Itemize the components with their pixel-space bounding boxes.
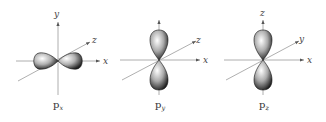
upper-lobe xyxy=(254,30,272,60)
orbital-label-py: py xyxy=(155,99,165,112)
upper-lobe xyxy=(150,30,168,60)
z-axis-label: z xyxy=(259,8,265,18)
x-axis-label: x xyxy=(103,56,108,66)
right-lobe xyxy=(58,53,82,69)
z-axis-label: z xyxy=(195,35,201,45)
p-orbitals-figure: y z x px z x py z y x pz xyxy=(0,0,326,122)
panel-pz: z y x pz xyxy=(224,8,312,112)
orbital-label-px: px xyxy=(53,99,63,112)
lower-lobe xyxy=(150,60,168,90)
panel-py: z x py xyxy=(120,20,208,112)
panel-px: y z x px xyxy=(16,9,108,112)
x-axis-label: x xyxy=(307,55,312,65)
x-axis-label: x xyxy=(203,55,208,65)
y-axis-label: y xyxy=(298,34,305,44)
lower-lobe xyxy=(254,60,272,90)
orbital-label-pz: pz xyxy=(259,99,269,112)
z-axis-label: z xyxy=(91,35,97,45)
y-axis-label: y xyxy=(53,9,60,19)
left-lobe xyxy=(34,53,58,69)
